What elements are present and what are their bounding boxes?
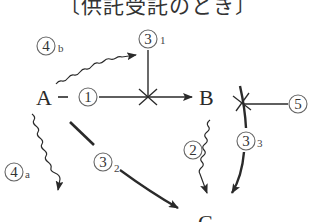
node-a: A [36,85,52,110]
arrow-3-1: 3 1 [139,30,166,97]
label-5-num: 5 [294,96,302,112]
relation-diagram: A B C 1 3 1 4 b 4 a 3 2 [0,0,316,222]
arrow-2: 2 [184,120,210,193]
arrow-1: 1 [58,88,192,106]
label-2-num: 2 [189,142,197,158]
label-1-num: 1 [84,89,92,105]
node-b: B [199,85,214,110]
label-4a-sub: a [25,168,30,180]
arrow-4b: 4 b [37,37,136,84]
node-c: C [198,210,213,222]
arrow-4a: 4 a [5,114,60,190]
label-3-1-sub: 1 [160,34,166,46]
arrow-3-2: 3 2 [70,122,178,208]
label-4b-sub: b [58,42,64,54]
label-3-2-sub: 2 [114,162,120,174]
arrow-3-3: 3 3 [232,86,263,193]
label-3-3-num: 3 [242,133,250,149]
label-3-3-sub: 3 [257,137,263,149]
label-4a-num: 4 [10,164,18,180]
label-4b-num: 4 [42,38,50,54]
arrow-5: 5 [243,95,307,113]
label-3-1-num: 3 [144,31,152,47]
label-3-2-num: 3 [99,154,107,170]
